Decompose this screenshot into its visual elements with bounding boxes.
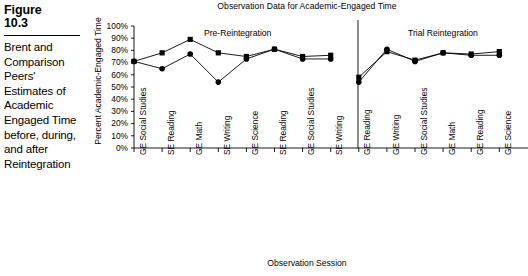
x-tick-label: GE Social Studies xyxy=(306,88,316,156)
chart-container: Observation Data for Academic-Engaged Ti… xyxy=(86,0,528,276)
data-point-square xyxy=(160,50,165,55)
data-point-square xyxy=(216,50,221,55)
figure-number-line1: Figure xyxy=(4,3,42,17)
panel-label: Trial Reintegration xyxy=(408,28,478,38)
data-point-circle xyxy=(187,51,193,57)
figure-number-line2: 10.3 xyxy=(4,16,28,30)
figure-number: Figure10.3 xyxy=(4,4,86,30)
x-tick-label: GE Math xyxy=(194,122,204,155)
x-tick-label: SE Writing xyxy=(334,116,344,155)
data-point-circle xyxy=(384,46,390,52)
data-point-square xyxy=(188,37,193,42)
data-point-square xyxy=(356,75,361,80)
data-point-circle xyxy=(272,46,278,52)
x-tick-label: SE Writing xyxy=(222,116,232,155)
x-tick-label: GE Reading xyxy=(475,109,485,155)
x-tick-label: GE Reading xyxy=(362,109,372,155)
x-tick-label: SE Reading xyxy=(278,110,288,155)
panel-label: Pre-Reintegration xyxy=(204,28,271,38)
figure-page: Figure10.3 Brent and Comparison Peers' E… xyxy=(0,0,528,276)
figure-caption-text: Brent and Comparison Peers' Estimates of… xyxy=(4,40,86,171)
x-tick-label: GE Social Studies xyxy=(138,88,148,156)
data-point-circle xyxy=(300,56,306,62)
data-point-circle xyxy=(497,52,503,58)
data-point-circle xyxy=(216,79,222,85)
data-point-circle xyxy=(440,50,446,56)
data-point-circle xyxy=(468,52,474,58)
data-point-circle xyxy=(328,56,334,62)
x-tick-label: GE Social Studies xyxy=(419,88,429,156)
data-point-circle xyxy=(356,79,362,85)
x-tick-label: GE Writing xyxy=(391,115,401,155)
figure-caption-block: Figure10.3 Brent and Comparison Peers' E… xyxy=(4,4,86,171)
caption-divider xyxy=(4,35,80,36)
series-line-2 xyxy=(359,49,500,82)
x-tick-label: GE Science xyxy=(503,111,513,155)
x-tick-label: SE Reading xyxy=(166,110,176,155)
x-tick-label: GE Science xyxy=(250,111,260,155)
data-point-circle xyxy=(412,59,418,65)
data-point-circle xyxy=(159,66,165,72)
data-point-circle xyxy=(244,56,250,62)
x-tick-label: GE Math xyxy=(447,122,457,155)
data-point-circle xyxy=(131,59,137,65)
